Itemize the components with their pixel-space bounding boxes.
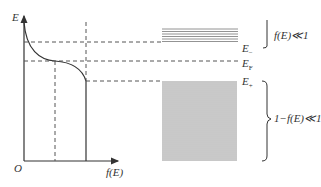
x-axis-label: f(E) (106, 167, 123, 178)
fermi-curve (24, 22, 86, 81)
upper-annotation: f(E)≪1 (274, 30, 309, 41)
y-axis-label: E (12, 12, 19, 23)
e-minus-label: E− (242, 43, 253, 57)
lower-brace (262, 81, 271, 161)
upper-band (162, 29, 238, 42)
lower-annotation: 1−f(E)≪1 (274, 113, 321, 124)
origin-label: O (14, 163, 22, 174)
upper-bracket (263, 20, 267, 48)
lower-band (162, 82, 237, 160)
fermi-diagram (0, 0, 321, 187)
e-plus-label: E+ (242, 76, 253, 90)
e-fermi-label: EF (242, 58, 253, 72)
